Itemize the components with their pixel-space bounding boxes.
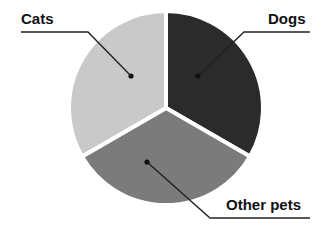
pie-slices	[69, 11, 263, 205]
dogs-leader-dot	[195, 73, 200, 78]
pie-chart	[0, 0, 328, 226]
other-pets-label: Other pets	[226, 197, 301, 212]
dogs-label: Dogs	[268, 11, 306, 26]
cats-leader-dot	[128, 73, 133, 78]
other-pets-leader-dot	[144, 159, 149, 164]
cats-label: Cats	[21, 11, 54, 26]
